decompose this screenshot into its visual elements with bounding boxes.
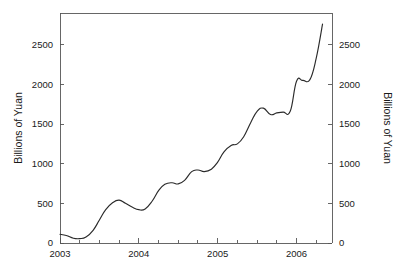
y-tick-label-left: 1500: [32, 118, 53, 129]
y-axis-title-left: Billions of Yuan: [12, 92, 24, 164]
line-chart: 2003200420052006005005001000100015001500…: [0, 0, 406, 278]
y-tick-label-right: 1500: [339, 118, 360, 129]
y-tick-label-left: 0: [48, 237, 53, 248]
y-tick-label-right: 2500: [339, 39, 360, 50]
y-tick-label-right: 1000: [339, 158, 360, 169]
y-tick-label-right: 0: [339, 237, 344, 248]
y-axis-title-right: Billions of Yuan: [382, 92, 394, 164]
y-tick-label-left: 1000: [32, 158, 53, 169]
y-tick-label-left: 500: [37, 198, 53, 209]
y-tick-label-right: 500: [339, 198, 355, 209]
chart-container: 2003200420052006005005001000100015001500…: [0, 0, 406, 278]
x-tick-label: 2006: [286, 248, 307, 259]
x-tick-label: 2003: [49, 248, 70, 259]
y-tick-label-left: 2000: [32, 79, 53, 90]
y-tick-label-left: 2500: [32, 39, 53, 50]
x-tick-label: 2004: [128, 248, 149, 259]
y-tick-label-right: 2000: [339, 79, 360, 90]
x-tick-label: 2005: [207, 248, 228, 259]
plot-frame: [60, 13, 332, 243]
data-series-line: [60, 24, 323, 239]
